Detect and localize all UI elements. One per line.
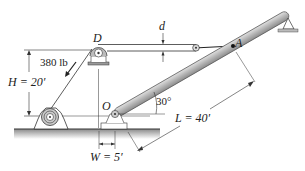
ground — [14, 129, 160, 139]
pulley-d: D — [88, 31, 109, 128]
pulley-d-label: D — [92, 31, 102, 45]
gap-label: d — [159, 19, 166, 33]
winch — [34, 108, 150, 129]
pivot-label: O — [102, 99, 111, 113]
diagram-canvas: H = 20′ 380 lb D — [0, 0, 305, 171]
boom — [113, 10, 291, 118]
offset-label: W = 5′ — [90, 150, 123, 164]
height-label: H = 20′ — [7, 75, 46, 89]
gap-dimension: d — [159, 19, 166, 62]
attach-label: A — [234, 36, 243, 50]
angle-label: 30° — [156, 95, 171, 107]
length-label: L = 40′ — [174, 111, 211, 125]
crane-diagram: H = 20′ 380 lb D — [0, 0, 305, 171]
force-label: 380 lb — [40, 56, 68, 68]
cable-pair — [98, 45, 233, 52]
force-arrow: 380 lb — [40, 56, 76, 77]
